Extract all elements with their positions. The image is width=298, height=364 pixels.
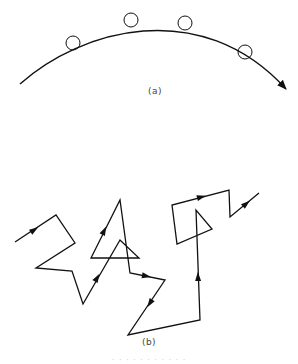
circle-marker-icon (178, 16, 192, 30)
diagram-figure: (a) (b) · · · · · · · · · · · (0, 0, 298, 364)
figure-caption-truncated: · · · · · · · · · · · (112, 356, 186, 364)
circle-marker-icon (66, 36, 80, 50)
arrowhead-icon (195, 272, 201, 281)
diagram-canvas (0, 0, 298, 364)
panel-b-label: (b) (142, 337, 156, 347)
panel-a-trajectory (20, 13, 286, 89)
arrowhead-icon (100, 225, 109, 236)
panel-b-random-walk (15, 190, 259, 335)
zigzag-path (15, 190, 259, 335)
panel-a-label: (a) (148, 86, 162, 96)
curved-path (20, 30, 286, 89)
circle-marker-icon (124, 13, 138, 27)
position-markers (66, 13, 252, 59)
arrowhead-icon (142, 272, 152, 280)
